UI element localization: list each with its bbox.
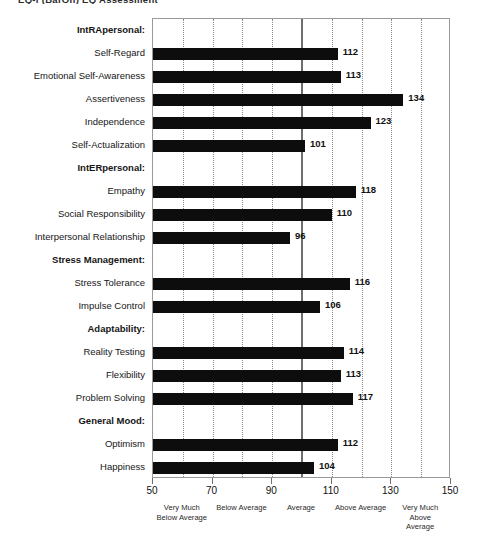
band-legend: Very Much Below AverageBelow AverageAver… [152,503,462,533]
bar-row: 134 [153,88,449,111]
bar-row: 117 [153,387,449,410]
section-label: Stress Management: [52,248,145,271]
bar [153,347,344,359]
bar-value-label: 117 [358,391,373,402]
category-label: Social Responsibility [58,202,145,225]
bar [153,462,314,474]
bar-value-label: 114 [349,345,364,356]
bar-row: 112 [153,42,449,65]
bar-value-label: 134 [408,92,424,103]
section-label: General Mood: [78,409,145,432]
axis-tick-label: 150 [442,485,459,496]
axis-tick-label: 70 [206,485,217,496]
bar-row: 113 [153,65,449,88]
axis-tick-label: 110 [323,485,339,496]
value-axis: 507090110130150 [152,478,450,486]
category-axis-labels: IntRApersonal:Self-RegardEmotional Self-… [0,18,149,478]
axis-tick-label: 130 [382,485,399,496]
category-label: Emotional Self-Awareness [34,64,145,87]
bar [153,117,371,129]
category-label: Problem Solving [76,386,145,409]
band-label: Very Much Below Average [157,503,208,522]
bar [153,209,332,221]
axis-tick-label: 90 [266,485,277,496]
bar-row: 114 [153,341,449,364]
bar [153,94,403,106]
band-label: Very Much Above Average [399,503,441,532]
axis-tick [450,478,451,484]
bar [153,48,338,60]
bar-value-label: 113 [346,69,361,80]
axis-tick [390,478,391,484]
section-label: Adaptability: [87,317,145,340]
bar-row: 116 [153,272,449,295]
bar-value-label: 112 [343,46,358,57]
bar-value-label: 96 [295,230,306,241]
category-label: Optimism [105,432,145,455]
bar-value-label: 112 [343,437,358,448]
bar-value-label: 101 [310,138,326,149]
bar [153,393,353,405]
axis-tick [212,478,213,484]
bar-value-label: 106 [325,299,341,310]
bar-row: 101 [153,134,449,157]
category-label: Reality Testing [83,340,145,363]
category-label: Happiness [100,455,145,478]
band-label: Average [287,503,315,513]
bar-row: 112 [153,433,449,456]
bar-row: 123 [153,111,449,134]
category-label: Interpersonal Relationship [35,225,145,248]
category-label: Independence [85,110,145,133]
band-label: Above Average [335,503,386,513]
bar-row: 113 [153,364,449,387]
bar [153,186,356,198]
category-label: Assertiveness [86,87,145,110]
bar [153,370,341,382]
bar-value-label: 116 [355,276,370,287]
bar-value-label: 110 [337,207,352,218]
category-label: Stress Tolerance [74,271,145,294]
plot-area: 1121131341231011181109611610611411311711… [152,18,450,478]
bar-value-label: 118 [361,184,376,195]
bar-row: 118 [153,180,449,203]
category-label: Empathy [108,179,146,202]
eq-assessment-bar-chart: IntRApersonal:Self-RegardEmotional Self-… [0,0,480,542]
category-label: Self-Regard [94,41,145,64]
bar [153,278,350,290]
axis-tick [152,478,153,484]
bar-rows: 1121131341231011181109611610611411311711… [153,19,449,477]
bar-row: 110 [153,203,449,226]
band-label: Below Average [216,503,267,513]
axis-tick [271,478,272,484]
bar-value-label: 113 [346,368,361,379]
section-label: IntRApersonal: [77,18,145,41]
section-label: IntERpersonal: [77,156,145,179]
axis-tick [331,478,332,484]
axis-tick-label: 50 [146,485,157,496]
bar-row: 96 [153,226,449,249]
bar [153,71,341,83]
bar-value-label: 104 [319,460,335,471]
bar [153,140,305,152]
category-label: Self-Actualization [72,133,145,156]
bar [153,232,290,244]
bar-row: 106 [153,295,449,318]
bar [153,301,320,313]
bar [153,439,338,451]
bar-row: 104 [153,456,449,479]
category-label: Flexibility [106,363,145,386]
category-label: Impulse Control [78,294,145,317]
bar-value-label: 123 [376,115,392,126]
